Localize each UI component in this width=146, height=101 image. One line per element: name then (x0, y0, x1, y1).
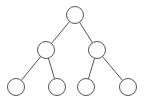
tree-node-root (67, 7, 84, 24)
tree-edge (51, 22, 69, 44)
tree-node-rr (120, 79, 137, 96)
tree-node-lr (49, 79, 66, 96)
tree-node-rl (78, 79, 95, 96)
tree-node-ll (8, 79, 25, 96)
binary-tree-diagram (0, 0, 146, 101)
tree-edge (21, 57, 40, 81)
tree-node-r (89, 42, 106, 59)
tree-node-l (38, 42, 55, 59)
tree-edges (21, 22, 122, 81)
tree-edge (48, 58, 54, 79)
tree-edge (88, 58, 94, 79)
tree-edge (80, 22, 93, 43)
tree-nodes (8, 7, 137, 96)
tree-edge (102, 57, 122, 81)
